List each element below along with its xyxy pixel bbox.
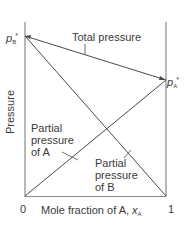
partial-pressure-a-label: Partial pressure of A: [31, 122, 74, 158]
x-axis-label: Mole fraction of A, xA: [41, 205, 142, 220]
total-pressure-label: Total pressure: [72, 32, 141, 43]
pa-star-label: pA*: [167, 74, 179, 92]
partial-pressure-b-label: Partial pressure of B: [95, 157, 138, 193]
y-axis-label: Pressure: [4, 90, 16, 134]
pb-star-label: pB*: [6, 30, 18, 48]
arrowhead-right: [159, 76, 166, 80]
x-tick-0: 0: [20, 204, 26, 215]
x-tick-1: 1: [168, 204, 174, 215]
